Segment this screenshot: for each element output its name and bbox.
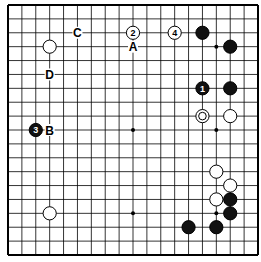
letter-b: B bbox=[45, 124, 54, 138]
black-stone bbox=[196, 26, 209, 39]
white-stone bbox=[196, 110, 209, 123]
black-stone bbox=[224, 82, 237, 95]
white-stone bbox=[224, 179, 237, 192]
white-stone bbox=[43, 40, 56, 53]
move-number: 2 bbox=[130, 28, 135, 38]
black-stone bbox=[224, 207, 237, 220]
go-board: 2413 ABCD bbox=[0, 0, 261, 262]
white-stone: 2 bbox=[126, 26, 139, 39]
move-number: 4 bbox=[172, 28, 177, 38]
white-stone bbox=[224, 110, 237, 123]
star-point bbox=[214, 45, 218, 49]
star-point bbox=[214, 211, 218, 215]
move-number: 1 bbox=[200, 84, 205, 94]
move-number: 3 bbox=[33, 125, 38, 135]
star-point bbox=[131, 211, 135, 215]
black-stone bbox=[182, 221, 195, 234]
white-stone bbox=[210, 193, 223, 206]
letter-a: A bbox=[129, 40, 138, 54]
black-stone: 1 bbox=[196, 82, 209, 95]
black-stone: 3 bbox=[29, 123, 42, 136]
white-stone: 4 bbox=[168, 26, 181, 39]
letter-d: D bbox=[45, 68, 54, 82]
letter-c: C bbox=[73, 26, 82, 40]
black-stone bbox=[224, 193, 237, 206]
black-stone bbox=[224, 40, 237, 53]
star-point bbox=[131, 128, 135, 132]
white-stone bbox=[43, 207, 56, 220]
black-stone bbox=[210, 221, 223, 234]
star-point bbox=[214, 128, 218, 132]
white-stone bbox=[210, 165, 223, 178]
